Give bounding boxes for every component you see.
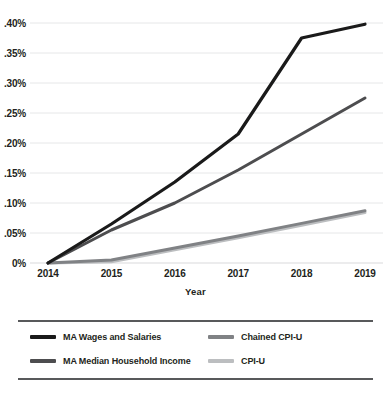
legend-swatch-icon [30, 335, 56, 339]
legend-item-ma-wages-and-salaries[interactable]: MA Wages and Salaries [30, 332, 161, 342]
legend-item-cpi-u[interactable]: CPI-U [208, 356, 265, 366]
legend-item-label: MA Median Household Income [63, 356, 191, 366]
legend: MA Wages and Salaries MA Median Househol… [18, 320, 373, 380]
legend-divider-top [18, 320, 373, 322]
y-axis-tick-label: 0% [0, 258, 26, 269]
gridlines [30, 23, 383, 263]
y-axis-tick-label: .05% [0, 228, 26, 239]
x-axis-tick-label: 2015 [88, 268, 134, 279]
x-axis-title: Year [0, 286, 391, 297]
legend-divider-bottom [18, 378, 373, 380]
x-axis-tick-label: 2019 [342, 268, 388, 279]
y-axis-tick-label: .30% [0, 78, 26, 89]
legend-swatch-icon [30, 359, 56, 363]
series-line [48, 98, 365, 263]
series-line [48, 24, 365, 263]
x-axis-tick-label: 2017 [215, 268, 261, 279]
legend-item-chained-cpi-u[interactable]: Chained CPI-U [208, 332, 302, 342]
x-axis-tick-label: 2016 [152, 268, 198, 279]
legend-swatch-icon [208, 335, 234, 339]
y-axis-tick-label: .10% [0, 198, 26, 209]
chart-container: 0%.05%.10%.15%.20%.25%.30%.35%.40% 20142… [0, 0, 391, 395]
series-lines [48, 24, 365, 263]
plot-area: 0%.05%.10%.15%.20%.25%.30%.35%.40% 20142… [0, 0, 391, 300]
legend-item-label: MA Wages and Salaries [63, 332, 161, 342]
legend-swatch-icon [208, 359, 234, 363]
y-axis-tick-label: .40% [0, 18, 26, 29]
x-axis-tick-label: 2014 [25, 268, 71, 279]
y-axis-tick-label: .20% [0, 138, 26, 149]
plot-svg [0, 0, 391, 300]
legend-item-label: CPI-U [241, 356, 265, 366]
legend-item-label: Chained CPI-U [241, 332, 302, 342]
x-axis-tick-label: 2018 [279, 268, 325, 279]
y-axis-tick-label: .15% [0, 168, 26, 179]
legend-item-ma-median-household-income[interactable]: MA Median Household Income [30, 356, 191, 366]
legend-items: MA Wages and Salaries MA Median Househol… [18, 328, 373, 372]
y-axis-tick-label: .35% [0, 48, 26, 59]
y-axis-tick-label: .25% [0, 108, 26, 119]
